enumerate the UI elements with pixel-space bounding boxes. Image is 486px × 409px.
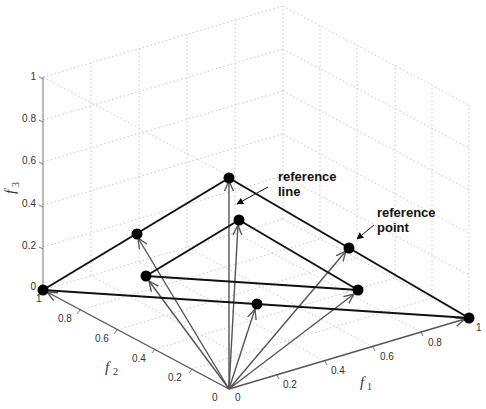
point-f2-apex: [38, 285, 49, 296]
svg-text:reference: reference: [278, 169, 337, 184]
f3-tick-0: 0: [30, 281, 36, 292]
svg-text:f: f: [360, 374, 366, 390]
svg-text:2: 2: [113, 366, 118, 377]
f1-tick-0.4: 0.4: [331, 365, 345, 376]
f3-tick-1: 1: [30, 71, 36, 82]
f3-label: f 3: [2, 182, 21, 194]
f3-tick-0.2: 0.2: [22, 240, 36, 251]
f2-axis: 1 0.8 0.6 0.4 0.2 0 f 2: [36, 293, 218, 403]
annotation-reference-line: reference line: [237, 169, 337, 204]
f2-tick-0.4: 0.4: [132, 353, 146, 364]
f3-tick-0.4: 0.4: [22, 198, 36, 209]
point-inner-2: [141, 271, 152, 282]
point-mid-23: [132, 229, 143, 240]
svg-text:f: f: [2, 188, 18, 194]
f1-tick-0.2: 0.2: [283, 379, 297, 390]
svg-text:reference: reference: [377, 205, 436, 220]
svg-text:1: 1: [367, 381, 372, 392]
f2-tick-0.6: 0.6: [95, 333, 109, 344]
f3-axis: 1 0.8 0.6 0.4 0.2 0 f 3: [2, 71, 43, 292]
f3-tick-0.8: 0.8: [22, 113, 36, 124]
f2-tick-0.2: 0.2: [168, 372, 182, 383]
ray-f1: [229, 319, 465, 389]
f1-tick-1: 1: [476, 322, 482, 333]
svg-text:f: f: [105, 359, 111, 375]
f3-tick-0.6: 0.6: [22, 155, 36, 166]
f1-tick-0.6: 0.6: [380, 351, 394, 362]
point-f3-apex: [224, 173, 235, 184]
point-inner-3: [234, 215, 245, 226]
chart-canvas: 1 0.8 0.6 0.4 0.2 0 f 3 1 0.8 0.6 0.4 0.…: [0, 0, 486, 409]
point-f1-apex: [464, 313, 475, 324]
f1-label: f 1: [360, 374, 372, 392]
f2-label: f 2: [105, 359, 118, 377]
outer-triangle: [43, 178, 469, 318]
f2-tick-0: 0: [212, 392, 218, 403]
reference-points: [38, 173, 475, 324]
f1-axis: 0 0.2 0.4 0.6 0.8 1 f 1: [235, 322, 482, 403]
point-mid-12: [252, 299, 263, 310]
ray-mid-23: [138, 238, 229, 389]
svg-text:point: point: [377, 220, 409, 235]
point-inner-1: [353, 285, 364, 296]
f1-tick-0: 0: [235, 392, 241, 403]
grid: [43, 6, 469, 375]
point-mid-13: [344, 243, 355, 254]
svg-text:3: 3: [10, 182, 21, 187]
svg-text:line: line: [278, 184, 300, 199]
inner-triangle: [146, 220, 358, 290]
f1-tick-0.8: 0.8: [428, 337, 442, 348]
ray-f2: [47, 292, 229, 389]
f2-tick-0.8: 0.8: [58, 313, 72, 324]
